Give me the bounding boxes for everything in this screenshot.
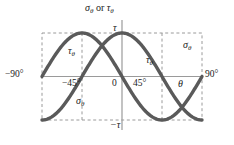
x-tick-label-zero: 0 [112, 79, 117, 89]
annotation-sigma-right-subscript: θ [188, 44, 191, 52]
y-axis-bottom-label: −τ [110, 120, 120, 130]
annotation-sigma-theta-lower: σθ [76, 96, 84, 108]
stress-angle-plot-figure: σθ or τθ τ −τ −90° 90° −45° 0 45° θ τθ τ… [0, 0, 234, 145]
x-axis-variable-label: θ [178, 79, 183, 89]
annotation-sigma-low-subscript: θ [81, 100, 84, 108]
plot-title: σθ or τθ [85, 3, 114, 15]
x-axis-right-label: 90° [205, 70, 218, 80]
annotation-tau-theta-middle: τθ [146, 55, 153, 67]
y-axis-top-label: τ [113, 23, 117, 33]
x-tick-label-minus-45: −45° [62, 79, 81, 89]
title-conjunction: or [93, 2, 106, 13]
x-axis-left-label: −90° [5, 70, 24, 80]
title-tau-subscript: θ [110, 7, 113, 15]
annotation-tau-left-subscript: θ [72, 50, 75, 58]
annotation-sigma-theta-right: σθ [183, 40, 191, 52]
annotation-tau-theta-left: τθ [68, 46, 75, 58]
annotation-tau-mid-subscript: θ [150, 59, 153, 67]
x-tick-label-plus-45: 45° [133, 79, 146, 89]
